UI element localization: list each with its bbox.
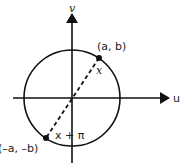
u-axis-arrow-icon xyxy=(160,92,170,104)
point-neg-a-neg-b xyxy=(43,135,49,141)
point-a-b xyxy=(96,55,102,61)
angle-x-plus-pi-label: x + π xyxy=(55,129,85,142)
u-axis-label: u xyxy=(173,92,180,105)
angle-x-label: x xyxy=(96,64,103,77)
unit-circle-diagram: v u (a, b) x x + π (–a, –b) xyxy=(0,0,181,166)
point-neg-a-neg-b-label: (–a, –b) xyxy=(0,142,38,155)
point-a-b-label: (a, b) xyxy=(97,40,126,53)
v-axis-label: v xyxy=(69,2,76,15)
